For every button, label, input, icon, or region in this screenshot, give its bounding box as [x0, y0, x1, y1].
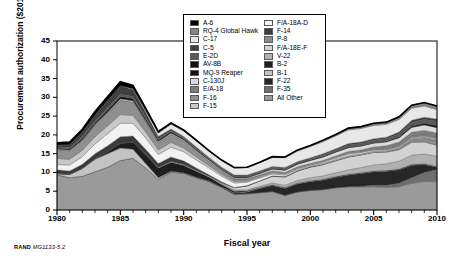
legend-swatch-icon [190, 28, 199, 35]
legend-label: C-17 [203, 36, 217, 43]
legend-swatch-icon [190, 61, 199, 68]
legend-swatch-icon [190, 103, 199, 110]
legend-swatch-icon [190, 86, 199, 93]
x-tick-label: 1980 [37, 214, 77, 223]
y-tick-label: 40 [28, 56, 50, 64]
y-tick-label: 20 [28, 131, 50, 139]
x-tick-label: 2000 [290, 214, 330, 223]
y-tick-label: 10 [28, 168, 50, 176]
legend-item: E-2D [190, 52, 258, 60]
legend-item: B-2 [264, 60, 308, 68]
x-tick-label: 2010 [417, 214, 450, 223]
legend-item: AV-8B [190, 60, 258, 68]
chart-legend: A-6RQ-4 Global HawkC-17C-5E-2DAV-8BMQ-9 … [183, 14, 326, 118]
legend-swatch-icon [264, 86, 273, 93]
x-axis-title: Fiscal year [57, 238, 437, 248]
legend-label: B-1 [277, 70, 287, 77]
legend-item: B-1 [264, 69, 308, 77]
legend-item: C-5 [190, 44, 258, 52]
y-tick-label: 0 [28, 206, 50, 214]
legend-item: RQ-4 Global Hawk [190, 27, 258, 35]
legend-item: V-22 [264, 52, 308, 60]
legend-label: P-8 [277, 36, 287, 43]
credit-id: MG1133-5.2 [33, 244, 66, 250]
legend-label: E/A-18 [203, 86, 223, 93]
x-tick-label: 2005 [354, 214, 394, 223]
legend-label: C-5 [203, 45, 214, 52]
legend-swatch-icon [264, 28, 273, 35]
legend-label: RQ-4 Global Hawk [203, 28, 258, 35]
legend-item: P-8 [264, 36, 308, 44]
y-tick-label: 15 [28, 150, 50, 158]
x-tick-label: 1985 [100, 214, 140, 223]
figure-credit: RAND MG1133-5.2 [14, 244, 65, 250]
x-tick-label: 1995 [227, 214, 267, 223]
legend-swatch-icon [264, 53, 273, 60]
legend-swatch-icon [190, 95, 199, 102]
legend-item: C-130J [190, 77, 258, 85]
legend-label: All Other [277, 95, 303, 102]
legend-label: F-35 [277, 86, 291, 93]
legend-swatch-icon [264, 78, 273, 85]
legend-swatch-icon [190, 45, 199, 52]
legend-swatch-icon [264, 61, 273, 68]
legend-swatch-icon [264, 36, 273, 43]
legend-item: F/A-18A-D [264, 19, 308, 27]
legend-swatch-icon [264, 45, 273, 52]
legend-item: F/A-18E-F [264, 44, 308, 52]
legend-item: F-22 [264, 77, 308, 85]
legend-item: MQ-9 Reaper [190, 69, 258, 77]
legend-item: F-15 [190, 102, 258, 110]
y-tick-label: 35 [28, 75, 50, 83]
credit-org: RAND [14, 244, 31, 250]
legend-label: F/A-18A-D [277, 20, 308, 27]
legend-swatch-icon [264, 70, 273, 77]
legend-label: E-2D [203, 53, 218, 60]
y-tick-label: 25 [28, 112, 50, 120]
y-tick-label: 30 [28, 93, 50, 101]
legend-swatch-icon [264, 95, 273, 102]
legend-label: F-16 [203, 95, 217, 102]
legend-swatch-icon [190, 20, 199, 27]
legend-item: F-16 [190, 94, 258, 102]
legend-label: A-6 [203, 20, 213, 27]
legend-label: F-22 [277, 78, 291, 85]
y-tick-label: 45 [28, 37, 50, 45]
legend-label: AV-8B [203, 61, 221, 68]
legend-swatch-icon [264, 20, 273, 27]
legend-swatch-icon [190, 70, 199, 77]
figure-container: Procurement authorization ($2011B) 05101… [0, 0, 450, 264]
legend-item: All Other [264, 94, 308, 102]
legend-item: A-6 [190, 19, 258, 27]
legend-swatch-icon [190, 36, 199, 43]
legend-label: V-22 [277, 53, 291, 60]
legend-item: C-17 [190, 36, 258, 44]
y-tick-label: 5 [28, 187, 50, 195]
legend-label: F/A-18E-F [277, 45, 307, 52]
legend-item: E/A-18 [190, 85, 258, 93]
legend-item: F-14 [264, 27, 308, 35]
x-tick-label: 1990 [164, 214, 204, 223]
legend-column: A-6RQ-4 Global HawkC-17C-5E-2DAV-8BMQ-9 … [190, 19, 258, 114]
legend-swatch-icon [190, 53, 199, 60]
legend-column: F/A-18A-DF-14P-8F/A-18E-FV-22B-2B-1F-22F… [264, 19, 308, 114]
legend-item: F-35 [264, 85, 308, 93]
legend-swatch-icon [190, 78, 199, 85]
legend-label: F-14 [277, 28, 291, 35]
legend-label: C-130J [203, 78, 224, 85]
legend-label: F-15 [203, 103, 217, 110]
legend-label: B-2 [277, 61, 287, 68]
legend-label: MQ-9 Reaper [203, 70, 243, 77]
